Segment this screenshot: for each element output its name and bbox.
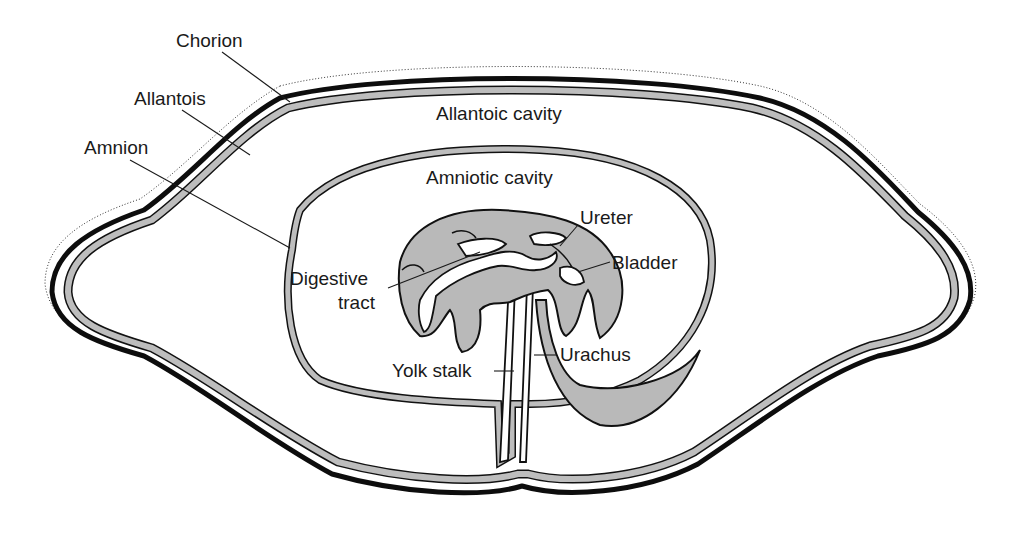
embryo-membranes-diagram: Chorion Allantois Amnion Allantoic cavit… (0, 0, 1022, 555)
label-ureter: Ureter (580, 207, 633, 228)
label-bladder: Bladder (612, 252, 678, 273)
label-chorion: Chorion (176, 30, 243, 51)
kidney (530, 232, 566, 245)
label-allantois: Allantois (134, 88, 206, 109)
label-amniotic-cavity: Amniotic cavity (426, 167, 553, 188)
label-digestive-tract-line2: tract (338, 292, 376, 313)
label-urachus: Urachus (560, 344, 631, 365)
label-digestive-tract-line1: Digestive (290, 268, 368, 289)
leader-chorion (222, 52, 290, 102)
label-allantoic-cavity: Allantoic cavity (436, 103, 562, 124)
label-yolk-stalk: Yolk stalk (392, 360, 472, 381)
label-amnion: Amnion (84, 137, 148, 158)
